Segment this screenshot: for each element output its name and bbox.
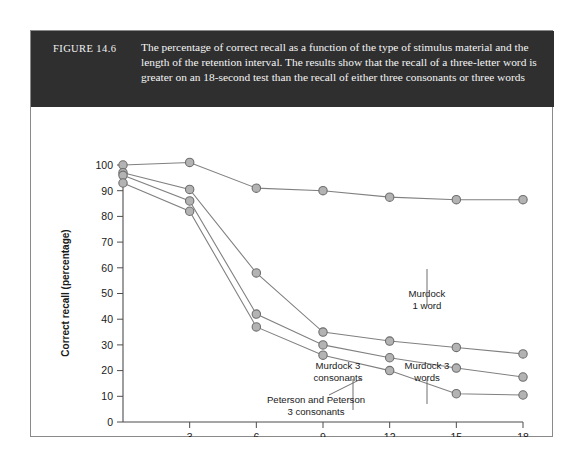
data-point-marker (319, 328, 327, 336)
data-point-marker (319, 187, 327, 195)
figure-caption-text: The percentage of correct recall as a fu… (141, 40, 539, 86)
data-point-marker (385, 337, 393, 345)
y-tick-label: 30 (101, 339, 113, 351)
data-point-marker (519, 195, 527, 203)
data-point-marker (519, 391, 527, 399)
data-point-marker (119, 179, 127, 187)
data-point-marker (185, 158, 193, 166)
data-point-marker (252, 184, 260, 192)
y-axis-title: Correct recall (percentage) (60, 229, 71, 356)
recall-line-chart: 0102030405060708090100 369121518 Murdock… (31, 107, 554, 437)
annotation-label: Murdock 3 (405, 360, 450, 371)
data-point-marker (452, 390, 460, 398)
data-point-marker (185, 207, 193, 215)
data-point-marker (385, 193, 393, 201)
annotation-label: Murdock 3 (316, 360, 361, 371)
data-point-marker (185, 197, 193, 205)
y-tick-label: 70 (101, 236, 113, 248)
data-point-marker (252, 310, 260, 318)
data-point-marker (452, 195, 460, 203)
annotation-label: 3 consonants (287, 406, 344, 417)
figure-caption-banner: FIGURE 14.6 The percentage of correct re… (31, 31, 554, 107)
figure-container: FIGURE 14.6 The percentage of correct re… (30, 30, 553, 437)
y-tick-label: 10 (101, 390, 113, 402)
y-axis: 0102030405060708090100 (95, 159, 123, 428)
data-point-marker (452, 343, 460, 351)
x-tick-label: 12 (384, 431, 396, 437)
x-tick-label: 15 (450, 431, 462, 437)
data-point-marker (119, 171, 127, 179)
data-point-marker (185, 185, 193, 193)
x-tick-label: 18 (517, 431, 529, 437)
y-tick-label: 80 (101, 210, 113, 222)
data-point-marker (319, 341, 327, 349)
y-tick-label: 50 (101, 287, 113, 299)
data-point-marker (385, 354, 393, 362)
x-tick-label: 9 (320, 431, 326, 437)
y-tick-label: 20 (101, 364, 113, 376)
chart-plot-area: 0102030405060708090100 369121518 Murdock… (31, 107, 554, 437)
data-point-marker (452, 364, 460, 372)
y-tick-label: 40 (101, 313, 113, 325)
y-tick-label: 90 (101, 185, 113, 197)
y-tick-label: 60 (101, 262, 113, 274)
annotation-label: Peterson and Peterson (267, 394, 365, 405)
data-point-marker (519, 373, 527, 381)
x-axis: 369121518 (187, 422, 529, 437)
x-tick-label: 3 (187, 431, 193, 437)
data-point-marker (385, 366, 393, 374)
y-tick-label: 0 (107, 416, 113, 428)
data-point-marker (319, 351, 327, 359)
figure-number-label: FIGURE 14.6 (53, 43, 116, 54)
data-point-marker (119, 161, 127, 169)
data-point-marker (252, 323, 260, 331)
data-point-marker (252, 269, 260, 277)
data-point-marker (519, 350, 527, 358)
x-tick-label: 6 (253, 431, 259, 437)
y-tick-label: 100 (95, 159, 113, 171)
